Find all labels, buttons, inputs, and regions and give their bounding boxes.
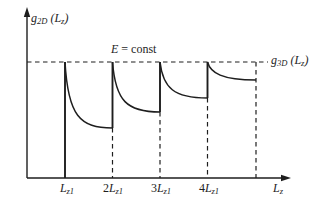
- x-tick-4lz1: 4Lz1: [199, 182, 219, 195]
- tick1-base: L: [60, 181, 67, 195]
- g3d-reference-label: g3D (Lz): [271, 54, 308, 67]
- g3d-sub: 3D: [277, 58, 287, 68]
- y-axis-arrowhead-icon: [24, 7, 30, 17]
- tick2-sub: z1: [116, 186, 124, 196]
- y-label-close-paren: ): [64, 11, 68, 25]
- g3d-close-paren: ): [304, 53, 308, 67]
- x-tick-2lz1: 2Lz1: [103, 182, 123, 195]
- dos-curve-segment-2: [113, 62, 161, 112]
- y-axis-label: g2D (Lz): [31, 12, 68, 25]
- x-label-sub: z: [280, 186, 283, 196]
- tick4-base: L: [205, 181, 212, 195]
- x-tick-3lz1: 3Lz1: [151, 182, 171, 195]
- tick3-sub: z1: [164, 186, 172, 196]
- y-label-sub: 2D: [37, 16, 47, 26]
- tick1-sub: z1: [67, 186, 75, 196]
- dos-curve-segment-1: [65, 62, 113, 128]
- dos-curve-segment-3: [160, 62, 208, 98]
- energy-const-label: E = const: [111, 43, 156, 56]
- x-label-base: L: [273, 181, 280, 195]
- x-axis-label: Lz: [273, 182, 283, 195]
- density-of-states-figure: g2D (Lz) E = const g3D (Lz) Lz1 2Lz1 3Lz…: [0, 0, 314, 207]
- dos-curve-segment-4: [208, 62, 257, 80]
- plot-canvas: [0, 0, 314, 207]
- x-tick-lz1: Lz1: [60, 182, 74, 195]
- tick4-sub: z1: [212, 186, 220, 196]
- tick3-base: L: [157, 181, 164, 195]
- x-axis-arrowhead-icon: [281, 175, 291, 181]
- tick2-base: L: [109, 181, 116, 195]
- energy-rest: = const: [118, 42, 156, 56]
